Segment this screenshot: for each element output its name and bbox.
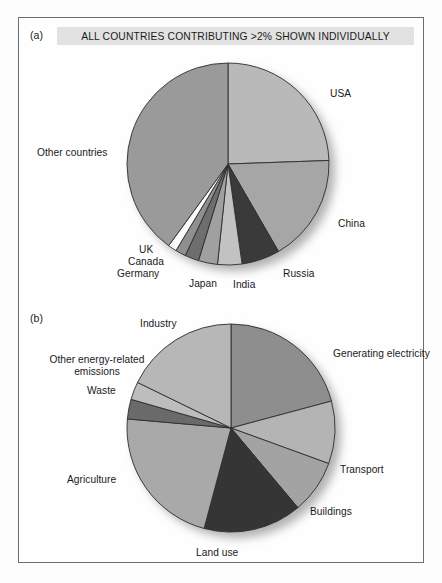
panel-b-label-buildings: Buildings	[310, 506, 352, 518]
panel-b-label-waste: Waste	[87, 385, 116, 397]
panel-b-label-land-use: Land use	[196, 547, 238, 559]
panel-b-label-generating-electricity: Generating electricity	[333, 348, 430, 360]
panel-b-label-agriculture: Agriculture	[67, 474, 116, 486]
panel-b-label-other-energy-related-emissions: Other energy-related emissions	[37, 354, 157, 378]
panel-b-pie-chart	[0, 0, 442, 583]
figure-container: (a) ALL COUNTRIES CONTRIBUTING >2% SHOWN…	[0, 0, 442, 583]
panel-b-label-transport: Transport	[340, 464, 384, 476]
panel-b-label-industry: Industry	[140, 318, 177, 330]
